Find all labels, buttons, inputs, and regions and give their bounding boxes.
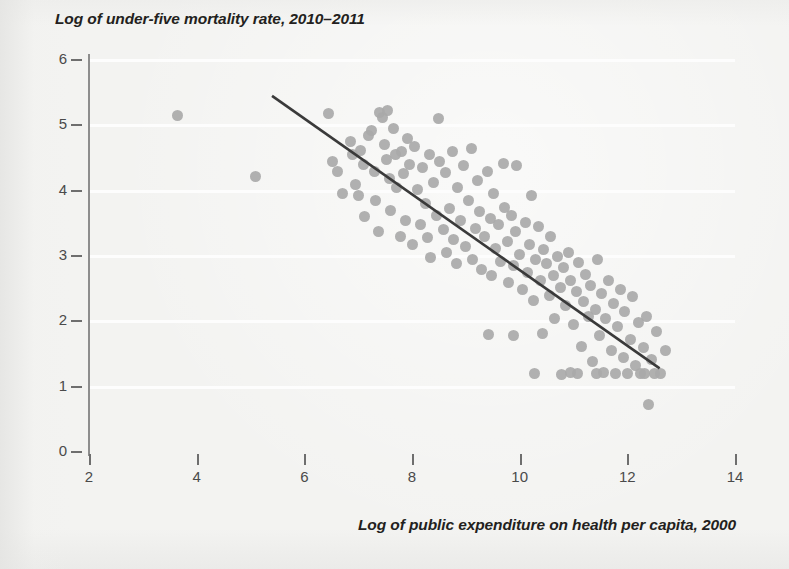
y-tick-label-2: 2: [47, 311, 67, 328]
x-axis-title: Log of public expenditure on health per …: [358, 516, 736, 534]
x-tick-label-2: 2: [69, 468, 109, 485]
y-tick-mark-2: [71, 320, 82, 322]
x-tick-mark-12: [627, 454, 629, 465]
scatter-plot-area: 0123456 2468101214: [89, 60, 735, 452]
y-tick-mark-4: [71, 190, 82, 192]
y-tick-mark-1: [71, 386, 82, 388]
y-tick-label-3: 3: [47, 246, 67, 263]
x-tick-label-4: 4: [177, 468, 217, 485]
chart-title: Log of under-five mortality rate, 2010–2…: [55, 10, 365, 28]
trend-line: [89, 60, 735, 452]
y-tick-mark-5: [71, 124, 82, 126]
y-tick-label-5: 5: [47, 115, 67, 132]
x-tick-mark-2: [89, 454, 91, 465]
y-tick-label-0: 0: [47, 442, 67, 459]
x-tick-label-10: 10: [500, 468, 540, 485]
x-tick-mark-14: [735, 454, 737, 465]
y-tick-mark-3: [71, 255, 82, 257]
y-tick-label-6: 6: [47, 50, 67, 67]
x-tick-mark-8: [412, 454, 414, 465]
x-tick-mark-10: [520, 454, 522, 465]
x-tick-label-14: 14: [715, 468, 755, 485]
y-tick-label-4: 4: [47, 181, 67, 198]
x-tick-label-6: 6: [284, 468, 324, 485]
y-tick-label-1: 1: [47, 377, 67, 394]
x-tick-label-12: 12: [607, 468, 647, 485]
y-tick-mark-0: [71, 451, 82, 453]
x-tick-mark-6: [304, 454, 306, 465]
x-tick-label-8: 8: [392, 468, 432, 485]
y-tick-mark-6: [71, 59, 82, 61]
x-tick-mark-4: [197, 454, 199, 465]
